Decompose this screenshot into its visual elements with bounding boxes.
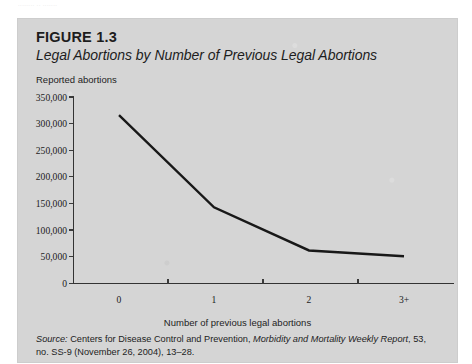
y-tick-label: 250,000	[36, 145, 67, 156]
chart-svg: 350,000 300,000 250,000 200,000 150,000 …	[17, 18, 458, 363]
x-tick-label: 1	[212, 294, 217, 305]
y-tick-label: 350,000	[36, 92, 67, 103]
y-axis-tick-labels: 350,000 300,000 250,000 200,000 150,000 …	[36, 92, 67, 289]
x-axis-tick-labels: 0 1 2 3+	[117, 294, 410, 305]
source-label: Source:	[36, 334, 68, 344]
line-chart: 350,000 300,000 250,000 200,000 150,000 …	[17, 18, 458, 363]
data-series-line	[119, 115, 404, 256]
page-top-artifact: ........ .. .......	[18, 1, 188, 8]
source-publication: Morbidity and Mortality Weekly Report	[253, 334, 408, 344]
x-axis-tick-marks	[168, 279, 358, 284]
y-tick-label: 100,000	[36, 225, 67, 236]
y-tick-label: 50,000	[41, 251, 68, 262]
source-text-1: Centers for Disease Control and Preventi…	[68, 334, 253, 344]
y-tick-label: 0	[62, 278, 67, 289]
y-tick-label: 150,000	[36, 198, 67, 209]
x-tick-label: 0	[117, 294, 122, 305]
figure-panel: FIGURE 1.3 Legal Abortions by Number of …	[17, 18, 458, 363]
source-note: Source: Centers for Disease Control and …	[36, 333, 441, 359]
x-tick-label: 3+	[399, 294, 409, 305]
y-tick-label: 300,000	[36, 118, 67, 129]
x-tick-label: 2	[307, 294, 312, 305]
y-tick-label: 200,000	[36, 171, 67, 182]
x-axis-caption: Number of previous legal abortions	[17, 317, 458, 328]
